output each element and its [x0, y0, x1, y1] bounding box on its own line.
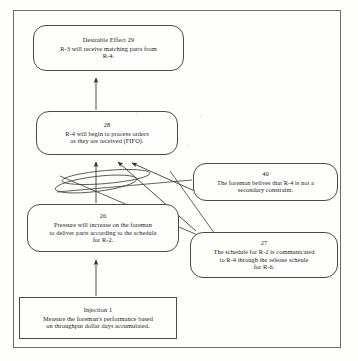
node-text-line: secondary constraint. — [217, 186, 314, 194]
node-text-line: for R-6. — [213, 263, 314, 271]
node-id-label: Injection 1 — [84, 306, 113, 314]
node-text: The schedule for R-2 is communicated to … — [213, 248, 314, 271]
node-id-label: Desirable Effect 29 — [83, 36, 134, 44]
node-text-line: R-3 will receive matching parts from — [60, 45, 156, 53]
node-id-label: 28 — [104, 121, 111, 129]
node-text-line: to deliver parts according to the schedu… — [49, 229, 156, 237]
node-text-line: on throughput dollar days accumulated. — [43, 322, 153, 330]
node-text: The foreman belives that R-4 is not a se… — [217, 179, 314, 195]
node-28[interactable]: 28 R-4 will begin to process orders as t… — [36, 111, 178, 155]
node-26[interactable]: 26 Pressure will increase on the foreman… — [27, 204, 179, 252]
node-27[interactable]: 27 The schedule for R-2 is communicated … — [190, 232, 338, 278]
node-text: R-3 will receive matching parts from R-4… — [60, 45, 156, 61]
node-text-line: The foreman belives that R-4 is not a — [217, 179, 314, 187]
scan-speck — [200, 116, 201, 117]
node-text: Pressure will increase on the foreman to… — [49, 221, 156, 244]
node-injection-1[interactable]: Injection 1 Measure the foreman's perfor… — [19, 297, 177, 339]
node-id-label: 26 — [100, 212, 107, 220]
node-text-line: for R-2. — [49, 236, 156, 244]
node-text: Measure the foreman's performance based … — [43, 315, 153, 331]
scan-speck — [136, 113, 137, 114]
node-text-line: Measure the foreman's performance based — [43, 315, 153, 323]
node-40[interactable]: 40 The foreman belives that R-4 is not a… — [193, 163, 338, 201]
node-id-label: 40 — [262, 170, 269, 178]
node-desirable-effect-29[interactable]: Desirable Effect 29 R-3 will receive mat… — [33, 25, 184, 71]
node-text-line: R-4. — [60, 52, 156, 60]
node-text: R-4 will begin to process orders as they… — [65, 130, 148, 146]
scan-speck — [187, 145, 188, 146]
node-text-line: Pressure will increase on the foreman — [49, 221, 156, 229]
node-text-line: as they are received (FIFO). — [65, 137, 148, 145]
node-text-line: to R-4 through the release scheule — [213, 256, 314, 264]
node-text-line: The schedule for R-2 is communicated — [213, 248, 314, 256]
scanned-page: Desirable Effect 29 R-3 will receive mat… — [0, 0, 358, 361]
node-id-label: 27 — [261, 239, 268, 247]
node-text-line: R-4 will begin to process orders — [65, 130, 148, 138]
